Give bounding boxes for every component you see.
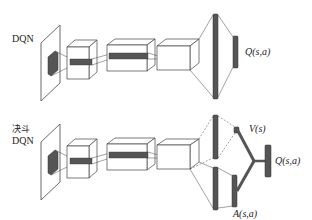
input-plane	[41, 124, 60, 200]
dqn-diagram: DQN	[12, 14, 271, 101]
network-diagram: DQN	[0, 0, 312, 220]
q-output-label: Q(s,a)	[275, 155, 301, 167]
advantage-label: A(s,a)	[232, 208, 258, 220]
aggregation-connector	[237, 131, 265, 191]
conv-layer-1	[67, 40, 97, 79]
conv-layer-2	[107, 39, 155, 71]
conv-layer-3	[157, 39, 199, 70]
dueling-label-cn: 决斗	[12, 123, 30, 134]
q-output-label: Q(s,a)	[245, 46, 271, 58]
q-output-layer	[233, 36, 238, 68]
conv-layer-2	[107, 138, 155, 170]
conv-layer-3	[157, 139, 199, 169]
dueling-label-dqn: DQN	[12, 135, 34, 146]
q-output-layer	[265, 145, 271, 177]
conv-layer-1	[67, 139, 97, 178]
value-label: V(s)	[249, 123, 266, 135]
dueling-dqn-diagram: 决斗 DQN	[12, 115, 301, 220]
fc-layer	[213, 14, 218, 99]
input-plane	[41, 25, 60, 101]
value-fc-layer	[213, 115, 218, 159]
dqn-label: DQN	[12, 33, 34, 44]
advantage-fc-layer	[213, 167, 218, 210]
advantage-output-layer	[232, 175, 237, 207]
